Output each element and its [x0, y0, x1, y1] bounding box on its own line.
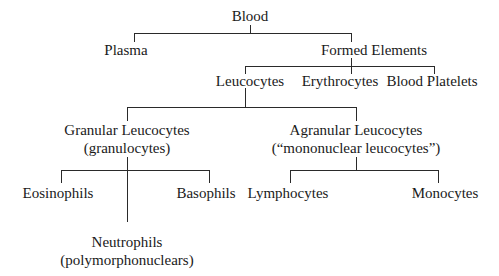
- node-neutrophils-label: Neutrophils: [60, 233, 193, 251]
- node-blood-platelets: Blood Platelets: [386, 72, 477, 90]
- node-erythrocytes: Erythrocytes: [302, 72, 379, 90]
- node-monocytes-label: Monocytes: [412, 184, 479, 202]
- node-granular-sublabel: (granulocytes): [64, 139, 189, 157]
- node-neutrophils-sublabel: (polymorphonuclears): [60, 251, 193, 269]
- node-granular-leucocytes: Granular Leucocytes (granulocytes): [64, 121, 189, 157]
- node-erythrocytes-label: Erythrocytes: [302, 72, 379, 90]
- node-basophils-label: Basophils: [176, 184, 235, 202]
- blood-classification-diagram: Blood Plasma Formed Elements Leucocytes …: [0, 0, 499, 276]
- node-granular-label: Granular Leucocytes: [64, 121, 189, 139]
- node-basophils: Basophils: [176, 184, 235, 202]
- node-agranular-leucocytes: Agranular Leucocytes (“mononuclear leuco…: [272, 121, 441, 157]
- node-leucocytes: Leucocytes: [216, 72, 284, 90]
- node-plasma-label: Plasma: [104, 41, 147, 59]
- node-plasma: Plasma: [104, 41, 147, 59]
- node-neutrophils: Neutrophils (polymorphonuclears): [60, 233, 193, 269]
- node-eosinophils-label: Eosinophils: [23, 184, 94, 202]
- node-lymphocytes-label: Lymphocytes: [248, 184, 329, 202]
- node-blood: Blood: [232, 7, 269, 25]
- node-agranular-sublabel: (“mononuclear leucocytes”): [272, 139, 441, 157]
- node-blood-platelets-label: Blood Platelets: [386, 72, 477, 90]
- node-lymphocytes: Lymphocytes: [248, 184, 329, 202]
- node-formed-elements: Formed Elements: [321, 41, 427, 59]
- node-blood-label: Blood: [232, 7, 269, 25]
- node-eosinophils: Eosinophils: [23, 184, 94, 202]
- node-formed-elements-label: Formed Elements: [321, 41, 427, 59]
- node-agranular-label: Agranular Leucocytes: [272, 121, 441, 139]
- node-monocytes: Monocytes: [412, 184, 479, 202]
- node-leucocytes-label: Leucocytes: [216, 72, 284, 90]
